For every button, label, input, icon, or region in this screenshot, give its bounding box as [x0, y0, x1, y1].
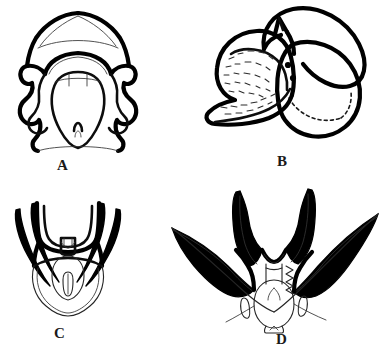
figure-plate: A: [0, 0, 380, 358]
panel-label-b: B: [277, 154, 288, 169]
panel-b: [195, 2, 377, 154]
panel-a: [8, 4, 148, 154]
panel-d: [170, 180, 376, 330]
panel-label-d: D: [276, 332, 287, 347]
panel-label-a: A: [57, 158, 68, 173]
panel-label-c: C: [54, 326, 65, 341]
panel-c: [4, 186, 128, 318]
